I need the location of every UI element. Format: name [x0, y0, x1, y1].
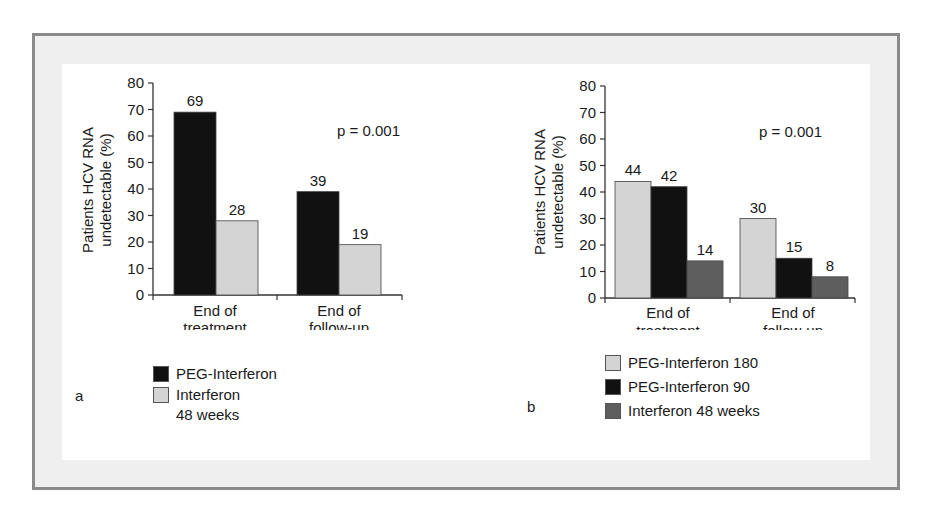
legend-item: Interferon48 weeks [153, 385, 277, 427]
svg-text:70: 70 [127, 101, 144, 118]
x-axis-labels: End of treatment End of follow-up [636, 304, 823, 330]
svg-text:10: 10 [579, 263, 596, 280]
svg-text:Patients HCV RNA: Patients HCV RNA [531, 129, 548, 255]
bar [776, 258, 812, 298]
bar [174, 112, 216, 295]
bar-value-label: 30 [750, 199, 767, 216]
svg-text:80: 80 [579, 77, 596, 94]
svg-text:30: 30 [579, 210, 596, 227]
bar [615, 181, 651, 298]
legend-swatch [605, 403, 621, 419]
svg-text:40: 40 [579, 183, 596, 200]
bar [740, 219, 776, 299]
svg-text:60: 60 [579, 130, 596, 147]
bar [297, 192, 339, 295]
y-axis-label: Patients HCV RNA undetectable (%) [79, 127, 114, 253]
bar-value-label: 19 [352, 225, 369, 242]
bar [216, 221, 258, 295]
bar-value-label: 42 [661, 167, 678, 184]
bars: 44421430158 [615, 161, 848, 298]
legend-swatch [153, 387, 169, 403]
legend-item: Interferon 48 weeks [605, 401, 760, 422]
svg-text:undetectable (%): undetectable (%) [97, 133, 114, 246]
svg-text:60: 60 [127, 127, 144, 144]
legend-item: PEG-Interferon 180 [605, 353, 760, 374]
bar-value-label: 44 [625, 161, 642, 178]
svg-text:0: 0 [136, 286, 144, 303]
bar [651, 187, 687, 298]
legend-swatch [153, 366, 169, 382]
p-value-annotation: p = 0.001 [337, 122, 400, 139]
svg-text:undetectable (%): undetectable (%) [549, 135, 566, 248]
svg-text:50: 50 [127, 154, 144, 171]
svg-text:treatment: treatment [183, 319, 247, 330]
svg-text:End of: End of [646, 304, 690, 321]
svg-text:End of: End of [193, 302, 237, 319]
svg-text:follow-up: follow-up [763, 322, 823, 330]
panel-label-b: b [527, 398, 535, 415]
legend-swatch [605, 355, 621, 371]
svg-text:50: 50 [579, 157, 596, 174]
p-value-annotation: p = 0.001 [759, 123, 822, 140]
svg-text:70: 70 [579, 104, 596, 121]
bar [812, 277, 848, 298]
svg-text:20: 20 [579, 236, 596, 253]
svg-text:20: 20 [127, 233, 144, 250]
legend-b: PEG-Interferon 180 PEG-Interferon 90 Int… [605, 353, 760, 422]
svg-text:30: 30 [127, 207, 144, 224]
svg-text:10: 10 [127, 260, 144, 277]
y-axis-label: Patients HCV RNA undetectable (%) [531, 129, 566, 255]
svg-text:0: 0 [588, 289, 596, 306]
bar [687, 261, 723, 298]
svg-text:40: 40 [127, 180, 144, 197]
bar-value-label: 69 [187, 92, 204, 109]
x-axis-labels: End of treatment End of follow-up [183, 302, 369, 330]
bar-value-label: 8 [826, 257, 834, 274]
bar-value-label: 15 [786, 238, 803, 255]
legend-a: PEG-Interferon Interferon48 weeks [153, 364, 277, 427]
svg-text:80: 80 [127, 74, 144, 91]
svg-text:follow-up: follow-up [309, 319, 369, 330]
svg-text:Patients HCV RNA: Patients HCV RNA [79, 127, 96, 253]
bar-value-label: 39 [310, 172, 327, 189]
bar [339, 245, 381, 295]
svg-text:End of: End of [771, 304, 815, 321]
legend-item: PEG-Interferon 90 [605, 377, 760, 398]
bar-value-label: 14 [697, 241, 714, 258]
panel-label-a: a [75, 387, 83, 404]
legend-swatch [605, 379, 621, 395]
legend-item: PEG-Interferon [153, 364, 277, 385]
svg-text:End of: End of [317, 302, 361, 319]
chart-b: Patients HCV RNA undetectable (%) 010203… [460, 0, 900, 330]
chart-a: Patients HCV RNA undetectable (%) 010203… [0, 0, 460, 330]
svg-text:treatment: treatment [636, 322, 700, 330]
bar-value-label: 28 [229, 201, 246, 218]
